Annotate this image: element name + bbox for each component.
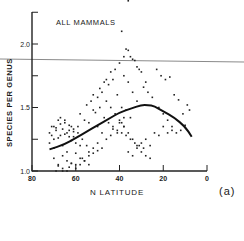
data-point — [79, 164, 81, 166]
x-tick-label: 80 — [28, 175, 36, 182]
data-point — [121, 122, 123, 124]
x-axis-label: N LATITUDE — [90, 188, 144, 197]
data-point — [141, 71, 143, 73]
data-point — [160, 75, 162, 77]
data-point — [154, 132, 156, 134]
data-point — [117, 130, 119, 132]
data-point — [117, 94, 119, 96]
x-tick-label: 60 — [72, 175, 80, 182]
data-point — [57, 119, 59, 121]
data-point — [152, 97, 154, 99]
data-point — [73, 131, 75, 133]
data-point — [121, 31, 123, 33]
data-point — [53, 126, 55, 128]
data-point — [162, 113, 164, 115]
x-tick-label: 20 — [159, 175, 167, 182]
data-point — [62, 155, 64, 157]
data-point — [66, 151, 68, 153]
data-point — [92, 109, 94, 111]
data-point — [123, 75, 125, 77]
data-point — [95, 112, 97, 114]
y-ticks: 1.01.52.0 — [20, 12, 38, 174]
data-point — [134, 142, 136, 144]
data-point — [180, 130, 182, 132]
data-point — [173, 94, 175, 96]
data-point — [68, 166, 70, 168]
data-point — [162, 126, 164, 128]
data-point — [136, 145, 138, 147]
x-tick-label: 40 — [116, 175, 124, 182]
data-point — [121, 107, 123, 109]
data-point — [132, 91, 134, 93]
data-point — [57, 137, 59, 139]
data-point — [123, 56, 125, 58]
data-point — [71, 126, 73, 128]
data-point — [108, 84, 110, 86]
data-point — [73, 128, 75, 130]
data-point — [82, 158, 84, 160]
data-point — [75, 142, 77, 144]
data-point — [136, 147, 138, 149]
data-point — [60, 123, 62, 125]
data-point — [66, 132, 68, 134]
data-point — [88, 151, 90, 153]
data-point — [79, 145, 81, 147]
data-point — [167, 119, 169, 121]
data-point — [119, 119, 121, 121]
data-point — [88, 155, 90, 157]
data-point — [156, 69, 158, 71]
x-ticks: 806040200 — [28, 165, 209, 182]
data-point — [165, 79, 167, 81]
data-point — [112, 126, 114, 128]
y-tick-label: 2.0 — [20, 41, 30, 48]
data-point — [141, 151, 143, 153]
data-point — [97, 142, 99, 144]
data-point — [53, 138, 55, 140]
data-point — [86, 145, 88, 147]
reference-line — [0, 59, 244, 62]
data-point — [92, 147, 94, 149]
data-point — [110, 135, 112, 137]
data-point — [123, 126, 125, 128]
data-point — [145, 155, 147, 157]
data-point — [106, 100, 108, 102]
data-point — [134, 60, 136, 62]
data-point — [66, 170, 68, 172]
data-point — [143, 86, 145, 88]
data-point — [125, 135, 127, 137]
data-point — [62, 128, 64, 130]
data-point — [136, 100, 138, 102]
data-point — [68, 136, 70, 138]
data-point — [55, 127, 57, 129]
data-point — [49, 142, 51, 144]
data-point — [68, 130, 70, 132]
data-point — [147, 91, 149, 93]
chart-title: ALL MAMMALS — [56, 18, 116, 27]
data-point — [77, 132, 79, 134]
data-point — [64, 122, 66, 124]
x-tick-label: 0 — [205, 175, 209, 182]
data-point — [187, 104, 189, 106]
data-point — [127, 50, 129, 52]
data-point — [176, 132, 178, 134]
data-point — [75, 168, 77, 170]
data-point — [73, 136, 75, 138]
data-point — [62, 170, 64, 172]
data-point — [79, 113, 81, 115]
data-point — [171, 126, 173, 128]
data-point — [132, 138, 134, 140]
data-point — [84, 119, 86, 121]
data-point — [121, 132, 123, 134]
data-point — [53, 158, 55, 160]
data-point — [64, 119, 66, 121]
data-point — [88, 164, 90, 166]
data-point — [62, 168, 64, 170]
data-point — [103, 117, 105, 119]
data-point — [97, 97, 99, 99]
data-point — [123, 117, 125, 119]
data-point — [132, 155, 134, 157]
data-point — [97, 150, 99, 152]
data-point — [101, 132, 103, 134]
data-point — [130, 56, 132, 58]
data-point — [114, 69, 116, 71]
